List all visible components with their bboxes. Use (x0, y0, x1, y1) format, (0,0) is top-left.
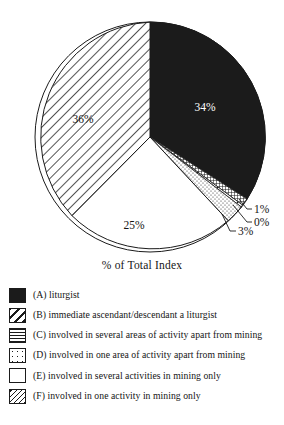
pie-label-b: 36% (72, 113, 94, 125)
legend-item-e: (E) involved in several activities in mi… (9, 366, 281, 386)
sparse-dots-swatch (9, 348, 26, 363)
legend-label-c: (C) involved in several areas of activit… (33, 330, 262, 341)
pie-label-a: 34% (194, 101, 216, 113)
fine-diagonal-swatch (9, 389, 26, 404)
pie-chart: 34% 36% 25% 1% 0% 3% (0, 0, 284, 258)
chart-caption: % of Total Index (0, 259, 284, 271)
pie-label-e: 3% (238, 225, 254, 237)
pie-label-c: 1% (254, 203, 270, 215)
legend-label-f: (F) involved in one activity in mining o… (33, 391, 201, 402)
pie-label-f: 25% (123, 219, 145, 231)
legend-label-a: (A) liturgist (33, 290, 80, 301)
solid-black-swatch (9, 288, 26, 303)
legend-item-f: (F) involved in one activity in mining o… (9, 386, 281, 406)
pie-label-d: 0% (254, 216, 270, 228)
pie-chart-svg: 34% 36% 25% 1% 0% 3% (0, 0, 284, 258)
empty-white-swatch (9, 368, 26, 383)
legend-item-b: (B) immediate ascendant/descendant a lit… (9, 305, 281, 325)
legend-label-e: (E) involved in several activities in mi… (33, 371, 221, 382)
chart-legend: (A) liturgist (B) immediate ascendant/de… (9, 285, 281, 406)
legend-item-a: (A) liturgist (9, 285, 281, 305)
dense-crosshatch-swatch (9, 328, 26, 343)
legend-item-d: (D) involved in one area of activity apa… (9, 346, 281, 366)
wide-diagonal-swatch (9, 308, 26, 323)
legend-item-c: (C) involved in several areas of activit… (9, 325, 281, 345)
legend-label-d: (D) involved in one area of activity apa… (33, 350, 245, 361)
legend-label-b: (B) immediate ascendant/descendant a lit… (33, 310, 217, 321)
